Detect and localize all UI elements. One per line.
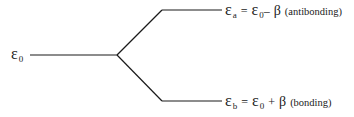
- epsilon-symbol: ε: [252, 92, 259, 109]
- subscript: b: [233, 101, 238, 111]
- equals-sign: =: [241, 4, 248, 18]
- epsilon-symbol: ε: [252, 1, 259, 18]
- operator: +: [268, 95, 275, 109]
- bonding-level-label: εb = ε0 + β (bonding): [225, 93, 332, 109]
- upper-branch-connector: [117, 10, 162, 55]
- lower-branch-connector: [117, 55, 162, 101]
- subscript: 0: [259, 10, 264, 20]
- initial-level-label: ε0: [11, 46, 23, 62]
- subscript: a: [233, 10, 237, 20]
- operator: –: [264, 4, 270, 18]
- epsilon-symbol: ε: [225, 92, 232, 109]
- orbital-type-note: (bonding): [290, 97, 331, 108]
- equals-sign: =: [241, 95, 248, 109]
- orbital-type-note: (antibonding): [285, 6, 342, 17]
- beta-symbol: β: [274, 3, 281, 18]
- beta-symbol: β: [279, 94, 286, 109]
- epsilon-symbol: ε: [225, 1, 232, 18]
- antibonding-level-label: εa = ε0– β (antibonding): [225, 2, 342, 18]
- subscript: 0: [260, 101, 265, 111]
- subscript: 0: [19, 54, 24, 64]
- epsilon-symbol: ε: [11, 45, 18, 62]
